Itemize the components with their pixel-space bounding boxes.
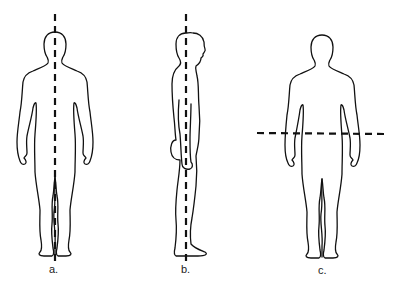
figure-b-label: b.: [181, 264, 190, 275]
figure-c-label: c.: [318, 265, 327, 276]
figure-b-body-outline: [171, 33, 207, 256]
figure-b-side-view: [171, 14, 207, 262]
diagram-svg: [0, 0, 399, 296]
figure-c-front-view: [257, 35, 385, 258]
anatomical-planes-diagram: a. b. c.: [0, 0, 399, 296]
figure-a-label: a.: [49, 264, 58, 275]
figure-c-body-outline: [285, 35, 360, 258]
figure-a-front-view: [17, 14, 93, 262]
figure-c-transverse-plane-line: [257, 133, 385, 134]
